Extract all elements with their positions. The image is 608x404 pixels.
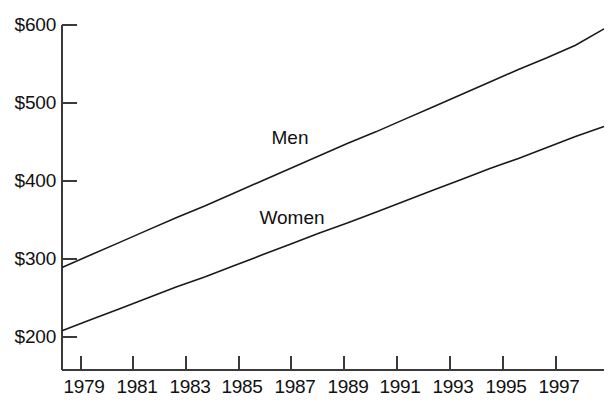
plot-area <box>0 0 608 404</box>
x-tick-label-1981: 1981 <box>116 376 157 398</box>
series-line-men <box>62 29 604 268</box>
x-axis-ticks <box>81 356 556 370</box>
y-tick-label-400: $400 <box>0 170 56 192</box>
x-tick-label-1983: 1983 <box>169 376 210 398</box>
series-label-women: Women <box>259 207 324 229</box>
x-tick-label-1989: 1989 <box>327 376 368 398</box>
line-chart: $600 $500 $400 $300 $200 1979 1981 1983 … <box>0 0 608 404</box>
y-tick-label-600: $600 <box>0 14 56 36</box>
x-tick-label-1993: 1993 <box>432 376 473 398</box>
y-tick-label-300: $300 <box>0 248 56 270</box>
x-tick-label-1979: 1979 <box>63 376 104 398</box>
y-tick-label-500: $500 <box>0 92 56 114</box>
x-tick-label-1995: 1995 <box>485 376 526 398</box>
x-tick-label-1997: 1997 <box>538 376 579 398</box>
y-axis-ticks <box>62 25 77 337</box>
x-tick-label-1987: 1987 <box>274 376 315 398</box>
series-line-women <box>62 126 604 330</box>
x-tick-label-1991: 1991 <box>379 376 420 398</box>
series-label-men: Men <box>272 127 309 149</box>
x-tick-label-1985: 1985 <box>221 376 262 398</box>
y-tick-label-200: $200 <box>0 326 56 348</box>
